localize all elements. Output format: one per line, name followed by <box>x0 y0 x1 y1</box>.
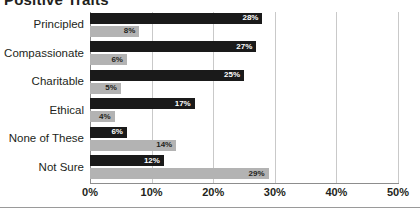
bar-value-label: 6% <box>111 56 123 64</box>
x-tick-label: 30% <box>264 186 286 198</box>
bar-group: 27%6% <box>90 41 398 70</box>
bar-secondary: 4% <box>90 111 115 122</box>
bar-secondary: 14% <box>90 140 176 151</box>
bar-group: 25%5% <box>90 69 398 98</box>
bar-primary: 25% <box>90 70 244 81</box>
chart-title: Positive Traits <box>4 0 109 8</box>
bar-value-label: 28% <box>242 14 258 22</box>
x-tick-label: 40% <box>325 186 347 198</box>
chart-container: Positive Traits 28%8%27%6%25%5%17%4%6%14… <box>0 0 420 220</box>
bar-primary: 27% <box>90 41 256 52</box>
category-label: Not Sure <box>0 161 84 173</box>
plot-area: 28%8%27%6%25%5%17%4%6%14%12%29% <box>90 12 398 183</box>
bar-secondary: 8% <box>90 26 139 37</box>
bar-group: 12%29% <box>90 155 398 184</box>
bar-value-label: 14% <box>156 141 172 149</box>
category-label: None of These <box>0 132 84 144</box>
category-label: Ethical <box>0 104 84 116</box>
x-tick-label: 20% <box>202 186 224 198</box>
bar-primary: 28% <box>90 13 262 24</box>
bar-value-label: 17% <box>175 100 191 108</box>
category-label: Principled <box>0 18 84 30</box>
bar-primary: 17% <box>90 98 195 109</box>
bar-primary: 12% <box>90 155 164 166</box>
gridline-50pct <box>398 12 399 183</box>
bar-group: 6%14% <box>90 126 398 155</box>
bar-primary: 6% <box>90 127 127 138</box>
bottom-rule-divider <box>0 207 420 208</box>
category-label: Charitable <box>0 75 84 87</box>
bar-group: 28%8% <box>90 12 398 41</box>
x-tick-label: 50% <box>387 186 409 198</box>
x-tick-label: 10% <box>141 186 163 198</box>
x-axis-line <box>90 183 399 184</box>
bar-secondary: 5% <box>90 83 121 94</box>
bar-group: 17%4% <box>90 98 398 127</box>
bar-value-label: 8% <box>124 27 136 35</box>
category-label: Compassionate <box>0 47 84 59</box>
bar-value-label: 12% <box>144 157 160 165</box>
x-tick-label: 0% <box>82 186 98 198</box>
bar-secondary: 6% <box>90 54 127 65</box>
bar-value-label: 5% <box>105 84 117 92</box>
bar-value-label: 25% <box>224 71 240 79</box>
bar-value-label: 6% <box>111 128 123 136</box>
bar-value-label: 29% <box>249 170 265 178</box>
bar-secondary: 29% <box>90 168 269 179</box>
bar-value-label: 4% <box>99 113 111 121</box>
bar-value-label: 27% <box>236 43 252 51</box>
